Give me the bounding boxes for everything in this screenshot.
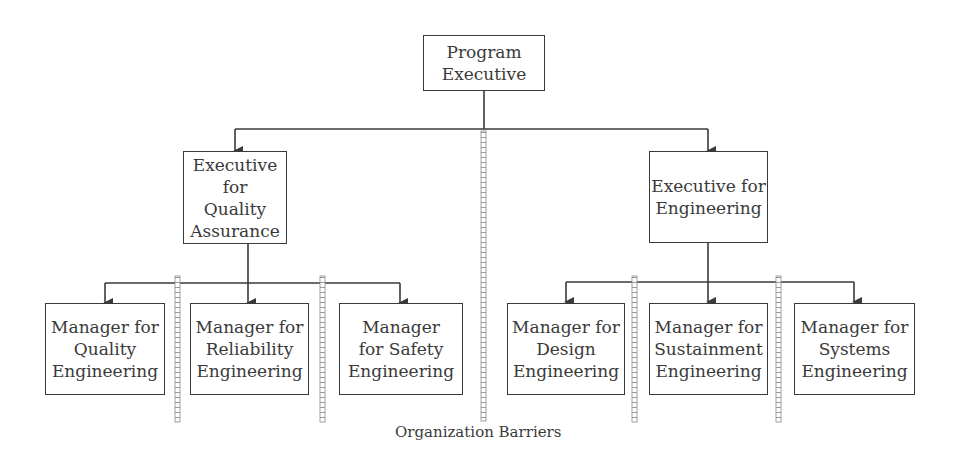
organization-barriers-caption: Organization Barriers bbox=[395, 423, 561, 441]
manager-systems-engineering-box: Manager for Systems Engineering bbox=[794, 303, 915, 395]
org-chart: Program Executive Executive for Quality … bbox=[0, 0, 957, 470]
manager-safety-engineering-box: Manager for Safety Engineering bbox=[339, 303, 463, 395]
manager-design-engineering-box: Manager for Design Engineering bbox=[507, 303, 625, 395]
manager-reliability-engineering-box: Manager for Reliability Engineering bbox=[190, 303, 309, 395]
manager-quality-engineering-box: Manager for Quality Engineering bbox=[45, 303, 165, 395]
executive-quality-assurance-box: Executive for Quality Assurance bbox=[183, 151, 287, 244]
executive-engineering-box: Executive for Engineering bbox=[649, 151, 768, 243]
manager-sustainment-engineering-box: Manager for Sustainment Engineering bbox=[649, 303, 768, 395]
program-executive-box: Program Executive bbox=[423, 35, 545, 91]
